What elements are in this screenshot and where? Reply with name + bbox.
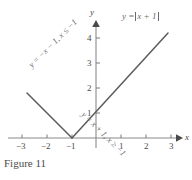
absolute-value-expression: x + 1: [135, 12, 159, 21]
y-tick-label-4: 4: [87, 34, 92, 43]
y-tick-label-3: 3: [87, 59, 92, 68]
x-tick-label-3: 3: [169, 142, 174, 151]
figure-container: x y −3 −2 −1 1 2 3 1 2 3 4 y =x + 1 y = …: [0, 0, 192, 180]
main-equation-label: y =x + 1: [122, 12, 159, 21]
main-equation-prefix: y =: [122, 11, 134, 21]
x-tick-label-neg3: −3: [16, 142, 26, 151]
figure-caption: Figure 11: [4, 158, 46, 169]
plot-area: [0, 0, 192, 180]
y-axis-ticks: [96, 38, 100, 113]
curve-left-branch: [27, 93, 72, 138]
x-tick-label-2: 2: [144, 142, 149, 151]
y-tick-label-2: 2: [87, 84, 92, 93]
x-axis-arrow: [176, 134, 183, 142]
x-axis-label: x: [185, 133, 189, 142]
x-tick-label-neg2: −2: [41, 142, 51, 151]
x-tick-label-neg1: −1: [66, 142, 76, 151]
y-axis-label: y: [90, 8, 94, 17]
y-axis-arrow: [92, 20, 100, 27]
